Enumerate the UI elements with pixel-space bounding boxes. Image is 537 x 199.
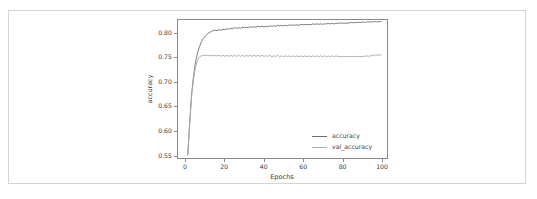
figure-container: 0.550.600.650.700.750.80 020406080100 ac… — [0, 0, 537, 199]
chart-legend: accuracy val_accuracy — [312, 131, 386, 153]
legend-label-accuracy: accuracy — [332, 133, 360, 139]
legend-item-accuracy[interactable]: accuracy — [312, 131, 386, 142]
legend-label-val-accuracy: val_accuracy — [332, 144, 372, 150]
legend-swatch-val-accuracy — [312, 147, 327, 148]
legend-swatch-accuracy — [312, 136, 327, 137]
legend-item-val-accuracy[interactable]: val_accuracy — [312, 142, 386, 153]
y-axis-label: accuracy — [147, 75, 153, 104]
x-axis-label: Epochs — [270, 174, 294, 181]
